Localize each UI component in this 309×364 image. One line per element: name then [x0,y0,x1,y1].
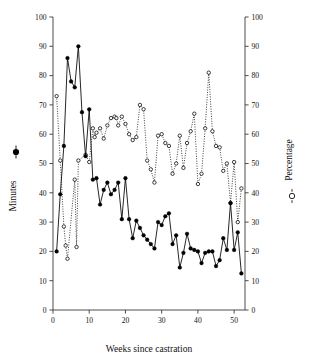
minutes-point: Minutes: week 34 = 25.5 [174,233,178,237]
minutes-point: Minutes: week 21 = 31 [127,217,131,221]
percentage-point: Percentage: week 23 = 59 [135,135,138,138]
percentage-point: Percentage: week 3 = 28.5 [62,225,65,228]
left-axis-tick-label: 30 [39,218,47,227]
minutes-point: Minutes: week 28 = 21 [153,247,157,251]
minutes-point: Minutes: week 11 = 44.5 [91,178,95,182]
percentage-point: Percentage: week 11.5 = 59 [93,135,96,138]
minutes-point: Minutes: week 31 = 32 [163,214,167,218]
x-axis-tick-label: 40 [194,316,202,325]
open-circle-marker-icon [289,193,294,198]
minutes-point: Minutes: week 7 = 90 [77,44,81,48]
minutes-point: Minutes: week 51 = 26.5 [236,231,240,235]
right-axis-tick-label: 100 [252,13,264,22]
percentage-point: Percentage: week 38 = 61 [189,130,192,133]
percentage-point: Percentage: week 47 = 47.5 [222,169,225,172]
percentage-line [57,73,242,259]
percentage-point: Percentage: week 10 = 50.5 [88,160,91,163]
minutes-point: Minutes: week 14 = 41 [102,188,106,192]
minutes-point: Minutes: week 50 = 20.5 [232,248,236,252]
percentage-point: Percentage: week 3.5 = 22 [64,244,67,247]
minutes-point: Minutes: week 25 = 25.5 [142,233,146,237]
minutes-point: Minutes: week 42 = 19.5 [203,251,207,255]
minutes-point: Minutes: week 46 = 17 [218,258,222,262]
percentage-point: Percentage: week 11 = 62 [91,127,94,130]
percentage-point: Percentage: week 25 = 68.5 [142,108,145,111]
minutes-point: Minutes: week 10 = 68.5 [87,107,91,111]
minutes-point: Minutes: week 30 = 29 [160,223,164,227]
minutes-point: Minutes: week 13 = 36 [98,203,102,207]
minutes-point: Minutes: week 3 = 56 [62,144,66,148]
minutes-point: Minutes: week 20 = 45 [124,176,128,180]
minutes-point: Minutes: week 17 = 41 [113,188,117,192]
percentage-point: Percentage: week 15 = 63 [106,124,109,127]
percentage-point: Percentage: week 26 = 51 [145,159,148,162]
percentage-point: Percentage: week 33 = 46.5 [171,172,174,175]
percentage-point: Percentage: week 39 = 67 [193,112,196,115]
left-axis-tick-label: 40 [39,189,47,198]
right-axis-tick-label: 30 [252,218,260,227]
percentage-point: Percentage: week 50 = 50.5 [232,160,235,163]
minutes-point: Minutes: week 52 = 12.5 [240,272,244,276]
minutes-point: Minutes: week 1 = 20 [55,250,59,254]
minutes-point: Minutes: week 41 = 16 [200,261,204,265]
percentage-point: Percentage: week 24 = 70 [138,103,141,106]
minutes-point: Minutes: week 39 = 20.5 [192,248,196,252]
right-axis-tick-label: 20 [252,247,260,256]
minutes-point: Minutes: week 40 = 20 [196,250,200,254]
right-axis-tick-label: 60 [252,130,260,139]
x-axis-tick-label: 50 [230,316,238,325]
left-axis-tick-label: 10 [39,277,47,286]
percentage-point: Percentage: week 28 = 43.5 [153,181,156,184]
minutes-point: Minutes: week 38 = 21 [189,247,193,251]
left-axis-tick-label: 60 [39,130,47,139]
minutes-point: Minutes: week 15 = 43.5 [105,181,109,185]
minutes-point: Minutes: week 29 = 30 [156,220,160,224]
dual-axis-line-chart: 0102030405060708090100 01020304050607080… [0,0,309,364]
x-axis-tick-label: 0 [51,316,55,325]
percentage-point: Percentage: week 21 = 60 [127,133,130,136]
series-percentage: Percentage: week 1 = 73Percentage: week … [55,71,243,260]
minutes-point: Minutes: week 45 = 15 [214,264,218,268]
minutes-point: Minutes: week 24 = 28 [138,226,142,230]
minutes-point: Minutes: week 49 = 36.5 [229,201,233,205]
left-axis-tick-label: 70 [39,101,47,110]
percentage-point: Percentage: week 20 = 63.5 [124,122,127,125]
minutes-point: Minutes: week 12 = 45 [95,176,99,180]
percentage-point: Percentage: week 30 = 60 [160,133,163,136]
percentage-point: Percentage: week 29 = 59.5 [156,134,159,137]
right-axis-tick-label: 10 [252,277,260,286]
percentage-point: Percentage: week 12 = 60.5 [95,131,98,134]
percentage-point: Percentage: week 22 = 58 [131,138,134,141]
percentage-point: Percentage: week 44 = 61 [211,130,214,133]
percentage-point: Percentage: week 2 = 51 [59,159,62,162]
right-axis-tick-label: 80 [252,71,260,80]
percentage-point: Percentage: week 14 = 58.5 [102,137,105,140]
minutes-point: Minutes: week 22 = 24.5 [131,236,135,240]
left-axis-tick-label: 20 [39,247,47,256]
right-axis-tick-label: 40 [252,189,260,198]
minutes-point: Minutes: week 16 = 39.5 [109,192,113,196]
percentage-point: Percentage: week 18 = 63 [117,124,120,127]
minutes-point: Minutes: week 43 = 20 [207,250,211,254]
percentage-point: Percentage: week 7 = 51 [77,159,80,162]
percentage-point: Percentage: week 32 = 56 [167,144,170,147]
percentage-point: Percentage: week 41 = 46.5 [200,172,203,175]
percentage-point: Percentage: week 27 = 48 [149,168,152,171]
percentage-point: Percentage: week 6 = 44.5 [73,178,76,181]
percentage-point: Percentage: week 37 = 57 [185,141,188,144]
percentage-point: Percentage: week 43 = 81 [207,71,210,74]
minutes-point: Minutes: week 9 = 52.5 [84,154,88,158]
percentage-point: Percentage: week 31 = 57 [164,141,167,144]
minutes-point: Minutes: week 23 = 30.5 [134,219,138,223]
minutes-point: Minutes: week 18 = 43.5 [116,181,120,185]
minutes-point: Minutes: week 33 = 22.5 [171,242,175,246]
left-axis-tick-label: 90 [39,42,47,51]
x-axis-title: Weeks since castration [106,344,193,354]
minutes-point: Minutes: week 37 = 26 [185,232,189,236]
minutes-point: Minutes: week 26 = 24 [145,238,149,242]
percentage-point: Percentage: week 13 = 62 [98,127,101,130]
percentage-point: Percentage: week 46 = 55.5 [218,146,221,149]
minutes-point: Minutes: week 27 = 22.5 [149,242,153,246]
minutes-point: Minutes: week 48 = 20.5 [225,248,229,252]
right-axis-tick-label: 70 [252,101,260,110]
